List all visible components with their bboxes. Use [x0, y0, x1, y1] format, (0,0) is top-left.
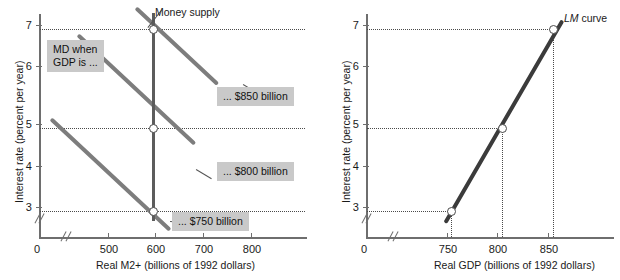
- left-y-axis-break-icon: [35, 213, 47, 227]
- md-curve-850: [135, 6, 219, 85]
- right-xtick-850: [548, 233, 549, 239]
- left-y-axis: [39, 14, 41, 238]
- equilibrium-node-600-5: [149, 124, 158, 133]
- right-y-axis: [366, 14, 368, 238]
- right-guide-i3: [367, 211, 452, 212]
- right-guide-i5: [367, 128, 503, 129]
- left-xtick-700: [203, 233, 204, 239]
- left-ytick-6: [36, 66, 42, 67]
- right-ytick-4: [363, 166, 369, 167]
- label-800-leader-line: [196, 169, 212, 179]
- right-guide-x800: [502, 128, 503, 237]
- lm-node-800-5: [498, 124, 507, 133]
- right-y-axis-title: Interest rate (percent per year): [340, 61, 352, 203]
- left-origin-label: 0: [34, 243, 40, 255]
- left-xtick-label-800: 800: [232, 243, 272, 255]
- left-ytick-label-7: 7: [16, 19, 32, 31]
- left-x-axis-break-icon: [61, 231, 75, 245]
- md-legend-box: MD whenGDP is ...: [47, 40, 104, 72]
- right-xtick-800: [497, 233, 498, 239]
- right-x-axis: [366, 237, 614, 239]
- right-y-axis-break-icon: [362, 213, 374, 227]
- left-xtick-label-600: 600: [136, 243, 176, 255]
- equilibrium-node-600-3: [149, 207, 158, 216]
- left-ytick-7: [36, 25, 42, 26]
- lm-curve-label-rest: curve: [579, 12, 608, 24]
- left-xtick-500: [108, 233, 109, 239]
- right-ytick-label-7: 7: [343, 19, 359, 31]
- left-xtick-800: [251, 233, 252, 239]
- label-850-billion: ... $850 billion: [217, 87, 294, 106]
- left-x-axis-title: Real M2+ (billions of 1992 dollars): [96, 259, 255, 271]
- lm-curve-panel: 7 6 5 4 3 750 800 850 0 Interest rate (p…: [312, 0, 620, 280]
- md-legend-line2: GDP is ...: [53, 56, 98, 68]
- lm-curve: [443, 19, 563, 223]
- right-xtick-label-800: 800: [478, 243, 518, 255]
- right-xtick-label-750: 750: [428, 243, 468, 255]
- right-xtick-750: [447, 233, 448, 239]
- lm-node-850-7: [549, 25, 558, 34]
- right-ytick-5: [363, 124, 369, 125]
- left-guide-i5: [40, 128, 305, 129]
- right-ytick-6: [363, 66, 369, 67]
- label-800-billion: ... $800 billion: [217, 162, 294, 181]
- right-x-axis-title: Real GDP (billions of 1992 dollars): [434, 259, 595, 271]
- money-market-panel: 7 6 5 4 3 500 600 700 800 0 Interest rat…: [0, 0, 312, 280]
- lm-node-750-3: [447, 207, 456, 216]
- right-ytick-3: [363, 207, 369, 208]
- left-y-axis-title: Interest rate (percent per year): [13, 61, 25, 203]
- left-xtick-600: [155, 233, 156, 239]
- lm-curve-label: LM curve: [564, 12, 607, 24]
- left-guide-i7: [40, 29, 305, 30]
- right-guide-x850: [553, 29, 554, 237]
- equilibrium-node-600-7: [149, 25, 158, 34]
- md-legend-line1: MD when: [53, 43, 97, 55]
- right-origin-label: 0: [361, 243, 367, 255]
- right-xtick-label-850: 850: [529, 243, 569, 255]
- left-ytick-5: [36, 124, 42, 125]
- left-xtick-label-500: 500: [89, 243, 129, 255]
- left-ytick-4: [36, 166, 42, 167]
- right-guide-i7: [367, 29, 554, 30]
- money-market-and-lm-curve-figure: 7 6 5 4 3 500 600 700 800 0 Interest rat…: [0, 0, 620, 280]
- left-ytick-3: [36, 207, 42, 208]
- money-supply-line: [152, 13, 155, 221]
- left-xtick-label-700: 700: [184, 243, 224, 255]
- label-750-billion: ... $750 billion: [172, 212, 249, 231]
- right-x-axis-break-icon: [388, 231, 402, 245]
- lm-curve-label-italic: LM: [564, 12, 579, 24]
- right-ytick-7: [363, 25, 369, 26]
- money-supply-label: Money supply: [155, 6, 220, 18]
- left-x-axis: [39, 237, 307, 239]
